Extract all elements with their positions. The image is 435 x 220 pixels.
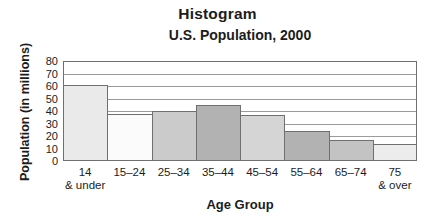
chart-subtitle: U.S. Population, 2000	[63, 27, 417, 43]
x-tick-label-45-54: 45–54	[246, 166, 278, 179]
x-axis-title: Age Group	[63, 197, 417, 212]
y-tick-label-0: 0	[28, 156, 58, 167]
x-tick-label-65-74: 65–74	[335, 166, 367, 179]
histogram-figure: Histogram U.S. Population, 2000 Populati…	[0, 0, 435, 220]
chart-title: Histogram	[0, 5, 435, 23]
y-tick-label-80: 80	[28, 56, 58, 67]
y-tick-label-20: 20	[28, 131, 58, 142]
y-tick-label-40: 40	[28, 106, 58, 117]
y-tick-label-60: 60	[28, 81, 58, 92]
y-tick-label-30: 30	[28, 119, 58, 130]
x-tick-label-25-34: 25–34	[158, 166, 190, 179]
x-tick-label-75-over: 75& over	[378, 166, 411, 192]
y-tick-label-50: 50	[28, 94, 58, 105]
y-tick-label-10: 10	[28, 144, 58, 155]
x-tick-label-15-24: 15–24	[113, 166, 145, 179]
x-tick-label-55-64: 55–64	[290, 166, 322, 179]
plot-area	[63, 61, 417, 161]
plot-frame	[63, 61, 417, 161]
y-tick-label-70: 70	[28, 69, 58, 80]
x-tick-label-35-44: 35–44	[202, 166, 234, 179]
x-tick-label-14-under: 14& under	[65, 166, 105, 192]
